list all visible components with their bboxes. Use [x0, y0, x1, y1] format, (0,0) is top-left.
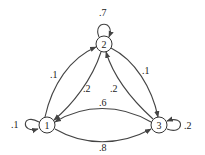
- edge-2-3: [111, 48, 158, 117]
- node-label-2: 2: [102, 39, 107, 50]
- edge-label-3-1: .6: [99, 97, 107, 108]
- markov-chain-diagram: .7 .1 .2 .1 .2 .1 .2 .6 .8 1 2 3: [0, 0, 205, 155]
- edge-3-1: [55, 109, 151, 123]
- edge-1-1: [25, 119, 39, 129]
- node-label-1: 1: [45, 120, 50, 131]
- edge-1-2: [45, 47, 96, 117]
- node-1: 1: [39, 117, 55, 133]
- edge-label-3-2: .2: [110, 83, 118, 94]
- edge-label-1-3: .8: [99, 142, 107, 153]
- edge-label-1-1: .1: [11, 119, 19, 130]
- edge-2-1: [54, 52, 101, 120]
- node-label-3: 3: [157, 120, 162, 131]
- edge-2-2: [98, 24, 111, 37]
- edge-label-2-2: .7: [99, 7, 107, 18]
- edge-label-1-2: .1: [50, 69, 58, 80]
- edge-label-3-3: .2: [184, 120, 192, 131]
- edge-3-3: [167, 120, 181, 131]
- edge-label-2-3: .1: [142, 65, 150, 76]
- edge-1-3: [55, 129, 151, 142]
- edge-label-2-1: .2: [83, 83, 91, 94]
- node-2: 2: [96, 36, 112, 52]
- node-3: 3: [151, 117, 167, 133]
